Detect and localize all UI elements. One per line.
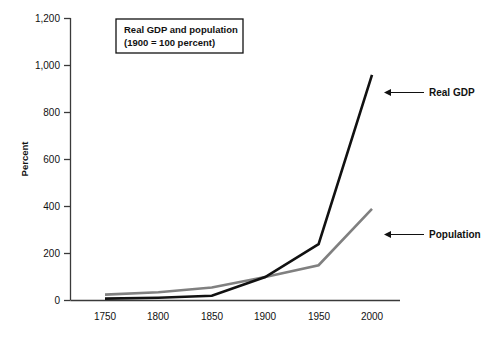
legend-line-1: Real GDP and population (124, 24, 238, 35)
annotation-population-label: Population (429, 229, 481, 240)
y-axis-title: Percent (19, 141, 30, 177)
annotation-population: Population (384, 229, 481, 240)
annotation-real-gdp: Real GDP (384, 87, 475, 98)
legend-box: Real GDP and population (1900 = 100 perc… (116, 19, 243, 53)
y-tick-label-1200: 1,200 (35, 13, 60, 24)
y-tick-label-1000: 1,000 (35, 60, 60, 71)
x-axis-tick-labels: 1750 1800 1850 1900 1950 2000 (94, 311, 384, 322)
line-chart: 1,200 1,000 800 600 400 200 0 Percent 17… (0, 0, 496, 338)
y-tick-label-200: 200 (43, 248, 60, 259)
y-axis-ticks (64, 19, 71, 301)
chart-container: 1,200 1,000 800 600 400 200 0 Percent 17… (0, 0, 496, 338)
y-tick-label-400: 400 (43, 201, 60, 212)
x-tick-label-1950: 1950 (308, 311, 331, 322)
y-tick-label-800: 800 (43, 107, 60, 118)
series-line-real-gdp (105, 75, 372, 299)
x-tick-label-1750: 1750 (94, 311, 117, 322)
x-tick-label-1850: 1850 (201, 311, 224, 322)
annotation-real-gdp-label: Real GDP (429, 87, 475, 98)
x-tick-label-2000: 2000 (361, 311, 384, 322)
x-tick-label-1900: 1900 (254, 311, 277, 322)
legend-line-2: (1900 = 100 percent) (124, 37, 215, 48)
arrow-left-icon (384, 231, 391, 238)
series-line-population (105, 209, 372, 295)
x-tick-label-1800: 1800 (147, 311, 170, 322)
y-axis-tick-labels: 1,200 1,000 800 600 400 200 0 (35, 13, 60, 306)
y-tick-label-0: 0 (54, 295, 60, 306)
y-tick-label-600: 600 (43, 154, 60, 165)
arrow-left-icon (384, 89, 391, 96)
